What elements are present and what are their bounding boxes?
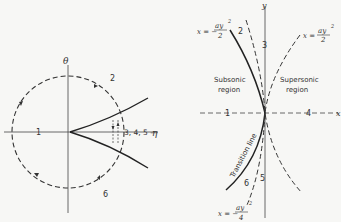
arrow-icon <box>117 122 120 126</box>
svg-text:ay: ay <box>236 204 245 212</box>
region-number-6: 6 <box>244 179 249 188</box>
dashed-curve-positive <box>265 35 302 193</box>
left-diagram: θ 1 2 3, 4, 5 — η 6 <box>4 56 158 213</box>
svg-text:ay: ay <box>215 22 224 30</box>
diagram-canvas: θ 1 2 3, 4, 5 — η 6 y x x = − ay 2 2 x =… <box>0 0 341 222</box>
lower-branch-curve <box>70 132 148 168</box>
region-number-1: 1 <box>225 109 230 118</box>
formula-bottom: x = − ay 2 4 <box>218 200 252 222</box>
x-label: x <box>336 109 341 118</box>
region-label-1: 1 <box>36 128 41 137</box>
supersonic-label: Supersonic <box>280 76 319 84</box>
region-number-5: 5 <box>260 174 265 183</box>
upper-branch-curve <box>70 98 148 132</box>
region-label-6: 6 <box>103 190 108 199</box>
arrow-icon <box>94 84 98 88</box>
transition-line-label: Transition line <box>228 132 258 180</box>
svg-text:2: 2 <box>330 23 334 29</box>
region-number-3: 3 <box>262 41 267 50</box>
theta-label: θ <box>63 56 69 66</box>
svg-text:2: 2 <box>217 32 223 40</box>
region-number-4: 4 <box>306 109 311 118</box>
eta-label: η <box>152 128 158 138</box>
y-label: y <box>261 1 267 10</box>
region-label-2: 2 <box>110 74 115 83</box>
arrow-icon <box>19 101 23 106</box>
svg-text:ay: ay <box>318 27 327 35</box>
subsonic-label-2: region <box>218 86 240 94</box>
svg-text:2: 2 <box>248 200 252 206</box>
region-number-2: 2 <box>238 27 243 36</box>
subsonic-label: Subsonic <box>214 76 246 84</box>
svg-text:2: 2 <box>227 18 231 24</box>
svg-text:4: 4 <box>238 214 243 222</box>
svg-text:2: 2 <box>320 36 326 44</box>
formula-top-left: x = − ay 2 2 <box>197 18 231 40</box>
supersonic-label-2: region <box>286 86 308 94</box>
arrow-icon <box>112 126 115 130</box>
svg-text:x =: x = <box>303 32 315 40</box>
right-diagram: y x x = − ay 2 2 x = ay 2 2 x = − ay 2 4… <box>197 1 341 222</box>
formula-top-right: x = ay 2 2 <box>303 23 334 44</box>
